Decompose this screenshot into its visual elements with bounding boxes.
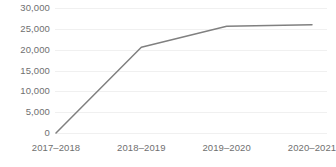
- footer-caption-clipped: [0, 161, 334, 167]
- y-tick-label: 25,000: [0, 24, 50, 34]
- y-tick-label: 0: [0, 128, 50, 138]
- plot-area: [55, 0, 327, 167]
- y-tick-label: 5,000: [0, 107, 50, 117]
- y-tick-label: 20,000: [0, 45, 50, 55]
- y-tick-label: 10,000: [0, 86, 50, 96]
- line-series-svg: [55, 0, 327, 167]
- y-axis: 30,00025,00020,00015,00010,0005,0000: [0, 0, 50, 167]
- y-tick-label: 15,000: [0, 66, 50, 76]
- y-tick-label: 30,000: [0, 3, 50, 13]
- line-series-path: [56, 25, 312, 133]
